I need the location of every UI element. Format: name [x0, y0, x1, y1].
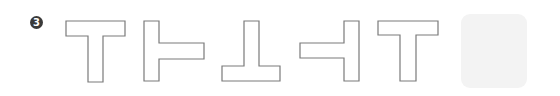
t-shape-left [300, 21, 359, 81]
t-shape-right [144, 21, 204, 81]
t-shape-up-1 [66, 21, 125, 82]
t-shape-up-2 [378, 21, 438, 81]
answer-placeholder-box[interactable] [461, 14, 527, 88]
t-shape-down [222, 21, 280, 81]
